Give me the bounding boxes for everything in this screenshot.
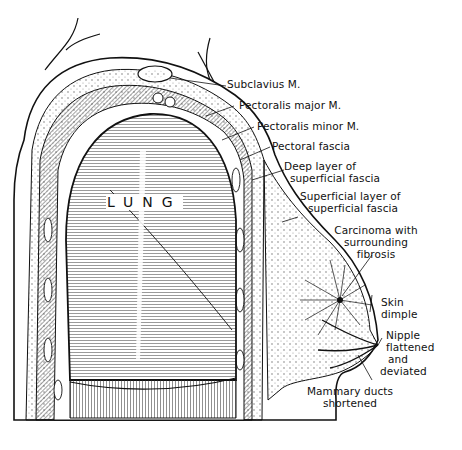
label-nipple: Nipple flattened and deviated [386,329,434,377]
label-pectoralis-minor: Pectoralis minor M. [257,120,359,132]
label-mammary-ducts: Mammary ducts shortened [300,385,400,409]
label-superficial-layer: Superficial layer of superficial fascia [300,190,401,214]
label-subclavius: Subclavius M. [227,78,300,90]
anatomy-diagram: LUNG Subclavius M. Pectoralis major M. P… [0,0,462,450]
label-deep-layer: Deep layer of superficial fascia [284,160,380,184]
label-pectoral-fascia: Pectoral fascia [272,140,350,152]
label-carcinoma: Carcinoma with surrounding fibrosis [326,224,426,260]
label-skin-dimple: Skin dimple [381,296,417,320]
label-pectoralis-major: Pectoralis major M. [239,99,341,111]
lung-label: LUNG [106,194,183,210]
